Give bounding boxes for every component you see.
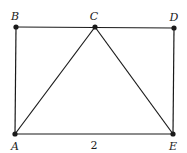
segment-ab: [15, 27, 16, 134]
point-c: [92, 24, 97, 29]
point-b: [13, 24, 18, 29]
segment-de: [173, 28, 174, 134]
segment-ce: [95, 27, 173, 134]
label-e: E: [169, 141, 177, 152]
point-a: [12, 131, 17, 136]
point-d: [171, 25, 176, 30]
diagram-lines: [0, 0, 187, 153]
label-a: A: [11, 141, 19, 152]
geometry-diagram: B C D A E 2: [0, 0, 187, 153]
point-e: [170, 131, 175, 136]
label-b: B: [11, 11, 19, 22]
segment-ac: [15, 27, 95, 134]
length-label-ae: 2: [91, 140, 98, 151]
label-c: C: [90, 11, 98, 22]
label-d: D: [170, 12, 179, 23]
